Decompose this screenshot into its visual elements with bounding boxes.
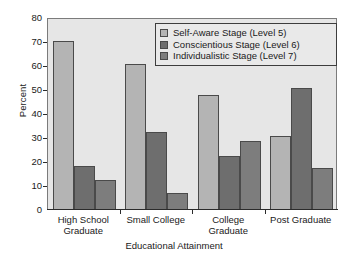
legend: Self-Aware Stage (Level 5)Conscientious …: [155, 23, 337, 66]
bar: [291, 88, 312, 209]
legend-swatch-icon: [160, 41, 168, 49]
bar: [312, 168, 333, 209]
bar: [219, 156, 240, 209]
bar: [74, 166, 95, 209]
legend-swatch-icon: [160, 29, 168, 37]
legend-row: Conscientious Stage (Level 6): [160, 39, 331, 50]
legend-label: Individualistic Stage (Level 7): [173, 51, 297, 61]
bar: [240, 141, 261, 209]
y-tick-label: 30: [24, 133, 42, 143]
y-tick-label: 80: [24, 13, 42, 23]
y-tick-label: 70: [24, 37, 42, 47]
y-tick-label: 10: [24, 181, 42, 191]
legend-swatch-icon: [160, 52, 168, 60]
x-group-label: Post Graduate: [255, 214, 348, 225]
legend-row: Self-Aware Stage (Level 5): [160, 28, 331, 39]
legend-label: Conscientious Stage (Level 6): [173, 40, 300, 50]
y-tick-label: 40: [24, 109, 42, 119]
bar: [146, 132, 167, 209]
y-tick-label: 50: [24, 85, 42, 95]
legend-label: Self-Aware Stage (Level 5): [173, 28, 286, 38]
x-axis-title: Educational Attainment: [0, 240, 348, 251]
bar: [270, 136, 291, 209]
bar-chart: Percent 01020304050607080 High School Gr…: [0, 0, 348, 257]
bar-group: [53, 19, 116, 209]
bar: [198, 95, 219, 209]
legend-row: Individualistic Stage (Level 7): [160, 51, 331, 62]
bar: [167, 193, 188, 209]
y-tick-label: 20: [24, 157, 42, 167]
bar: [53, 41, 74, 209]
bar: [95, 180, 116, 209]
bar: [125, 64, 146, 209]
y-tick-label: 60: [24, 61, 42, 71]
